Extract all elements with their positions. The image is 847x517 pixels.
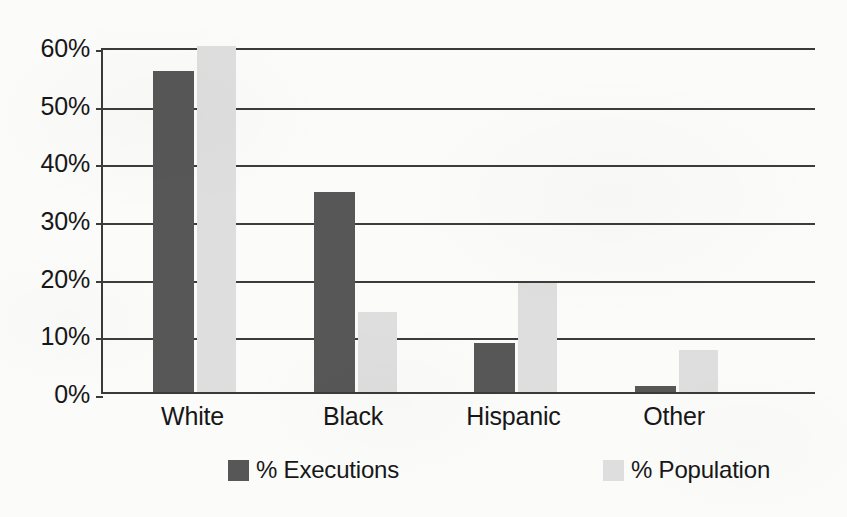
legend-item-population[interactable]: % Population <box>603 458 770 482</box>
legend-item-executions[interactable]: % Executions <box>228 458 399 482</box>
bar-hispanic-executions <box>474 343 515 392</box>
y-axis-tick-mark <box>96 281 103 283</box>
bar-white-population <box>197 46 236 392</box>
bar-black-executions <box>314 192 355 392</box>
y-axis-tick-label: 40% <box>41 151 90 176</box>
y-axis-tick-label: 10% <box>41 324 90 349</box>
bar-hispanic-population <box>518 283 557 392</box>
y-axis-tick-label: 0% <box>54 382 90 407</box>
y-axis-tick-mark <box>96 338 103 340</box>
x-axis-label-other: Other <box>643 404 705 429</box>
y-axis-tick-mark <box>96 165 103 167</box>
legend-label: % Executions <box>256 458 399 482</box>
legend-swatch-population <box>603 460 624 481</box>
bar-other-executions <box>635 386 676 392</box>
x-axis-label-black: Black <box>323 404 383 429</box>
x-axis-label-white: White <box>161 404 224 429</box>
legend-label: % Population <box>631 458 770 482</box>
bar-chart: 0%10%20%30%40%50%60% WhiteBlackHispanicO… <box>0 0 847 517</box>
bar-black-population <box>358 312 397 392</box>
y-axis-tick-label: 20% <box>41 266 90 291</box>
legend-swatch-executions <box>228 460 249 481</box>
y-axis-tick-mark <box>96 108 103 110</box>
y-axis-tick-mark <box>96 396 103 398</box>
x-axis-label-hispanic: Hispanic <box>466 404 560 429</box>
y-axis-tick-label: 50% <box>41 93 90 118</box>
bar-white-executions <box>153 71 194 392</box>
y-axis-tick-mark <box>96 50 103 52</box>
y-axis-tick-label: 60% <box>41 36 90 61</box>
y-axis-tick-label: 30% <box>41 209 90 234</box>
y-axis-tick-mark <box>96 223 103 225</box>
y-axis-tick-labels: 0%10%20%30%40%50%60% <box>0 0 90 517</box>
bar-other-population <box>679 350 718 392</box>
plot-area <box>101 48 815 394</box>
chart-legend: % Executions% Population <box>0 458 847 498</box>
